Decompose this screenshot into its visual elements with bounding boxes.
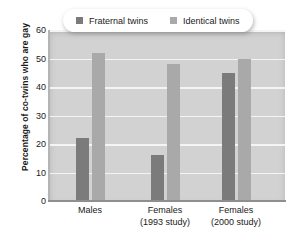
x-label-line1: Females	[148, 205, 183, 215]
legend-item-fraternal: Fraternal twins	[76, 16, 148, 26]
chart-legend: Fraternal twins Identical twins	[63, 9, 253, 32]
x-label-males: Males	[47, 205, 133, 217]
x-axis-category-labels: Males Females (1993 study) Females (2000…	[50, 205, 285, 243]
y-axis-tick-labels: 60 50 40 30 20 10 0	[22, 30, 46, 205]
y-tick-label: 0	[22, 196, 46, 206]
legend-item-identical: Identical twins	[170, 16, 240, 26]
legend-swatch-icon	[170, 17, 177, 24]
y-tick-label: 40	[22, 82, 46, 92]
y-tick-label: 50	[22, 54, 46, 64]
x-label-line1: Females	[219, 205, 254, 215]
bar-females-2000-identical	[238, 59, 251, 202]
y-tick-label: 10	[22, 168, 46, 178]
bar-males-fraternal	[76, 138, 89, 201]
bar-group-females-1993	[151, 30, 180, 201]
bar-chart-figure: Percentage of co-twins who are gay 60 50…	[0, 0, 301, 244]
bar-females-1993-identical	[167, 64, 180, 201]
y-tick-label: 20	[22, 139, 46, 149]
bar-females-1993-fraternal	[151, 155, 164, 201]
y-tick-label: 30	[22, 111, 46, 121]
bar-females-2000-fraternal	[222, 73, 235, 201]
bar-group-males	[76, 30, 105, 201]
x-label-line1: Males	[78, 205, 102, 215]
plot-area	[50, 30, 285, 201]
legend-swatch-icon	[76, 17, 83, 24]
bar-group-females-2000	[222, 30, 251, 201]
legend-label-identical: Identical twins	[183, 16, 240, 26]
bar-males-identical	[92, 53, 105, 201]
x-axis-line	[48, 200, 286, 202]
x-label-line2: (2000 study)	[193, 217, 279, 229]
x-label-females-2000: Females (2000 study)	[193, 205, 279, 228]
y-tick-label: 60	[22, 25, 46, 35]
legend-label-fraternal: Fraternal twins	[89, 16, 148, 26]
